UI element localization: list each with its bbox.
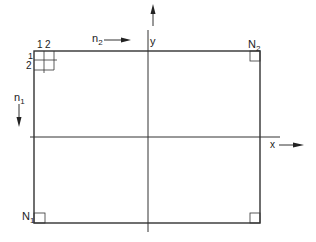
y-axis-label: y xyxy=(150,35,156,47)
N1-label: N1 xyxy=(22,210,35,225)
bottom-right-corner-cell xyxy=(250,213,260,223)
n2-label: n2 xyxy=(92,32,103,47)
y-axis-arrow-icon xyxy=(151,4,156,26)
col-label-1: 1 xyxy=(37,39,43,50)
corner-cells-grid xyxy=(34,51,57,73)
x-axis-label: x xyxy=(270,139,275,150)
x-axis-arrow-icon xyxy=(279,143,304,148)
n1-label: n1 xyxy=(14,91,25,106)
col-label-2: 2 xyxy=(45,39,51,50)
row-label-2: 2 xyxy=(26,60,32,71)
grid-diagram: y x n2 n1 1 2 1 2 N2 N1 xyxy=(0,0,316,242)
n1-arrow-icon xyxy=(17,104,22,127)
n2-arrow-icon xyxy=(104,38,131,43)
N1-corner-cell xyxy=(34,213,45,223)
